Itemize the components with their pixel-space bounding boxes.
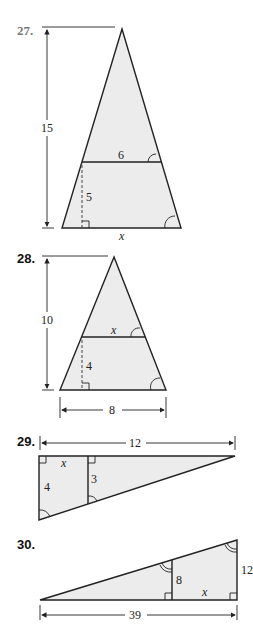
inner-height-label: 4	[86, 359, 92, 373]
left-side-label: 4	[44, 480, 50, 494]
inner-height-label: 5	[86, 190, 92, 204]
problem-29: 29. 12 x 4 3	[17, 434, 235, 520]
triangle-figure	[40, 540, 237, 600]
triangle-figure	[39, 456, 235, 520]
segment-label: x	[60, 456, 67, 470]
problem-30: 30. 39 8 x 12	[17, 537, 253, 622]
height-label: 15	[41, 121, 53, 135]
segment-label: x	[201, 585, 208, 599]
segment-label: 6	[118, 148, 124, 162]
right-side-label: 12	[241, 563, 253, 577]
problem-28: 28. 10 x 4 8	[17, 251, 166, 418]
problem-number: 30.	[17, 537, 35, 552]
problem-number: 29.	[17, 434, 35, 449]
triangle-figure	[62, 29, 181, 228]
problem-number: 28.	[17, 251, 35, 266]
inner-side-label: 8	[176, 573, 182, 587]
base-label: 8	[109, 403, 115, 417]
problem-number: 27.	[17, 23, 33, 38]
base-label: x	[118, 229, 125, 243]
segment-label: x	[110, 323, 117, 337]
base-label: 39	[129, 608, 141, 622]
height-label: 10	[41, 313, 53, 327]
width-label: 12	[129, 436, 141, 450]
inner-side-label: 3	[91, 472, 97, 486]
problem-27: 27. 15 6 5 x	[17, 23, 181, 243]
